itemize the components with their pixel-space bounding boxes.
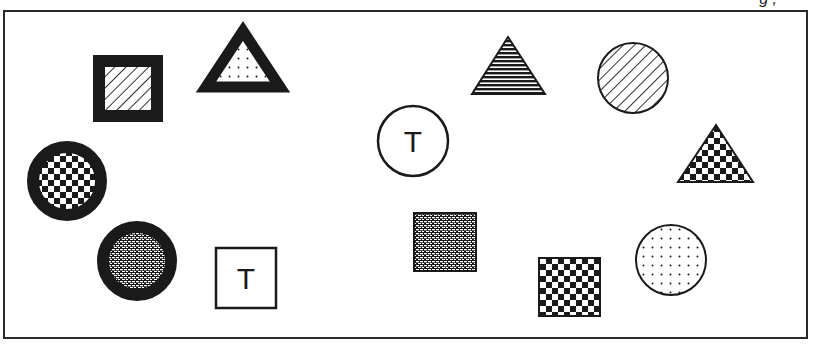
- circle-t: T: [378, 106, 448, 176]
- square-t-label: T: [237, 262, 255, 295]
- triangle-checkered: [678, 125, 753, 182]
- square-hatched-thick: [99, 61, 157, 116]
- circle-checkered-thick: [33, 147, 101, 215]
- square-brick: [414, 213, 476, 271]
- circle-hatched: [598, 43, 668, 113]
- triangle-horizontal-lines: [472, 37, 545, 94]
- circle-brick-thick: [103, 227, 171, 295]
- square-checkered: [539, 258, 600, 316]
- shapes-canvas: T T: [0, 0, 817, 346]
- circle-dotted: [636, 225, 706, 295]
- square-t: T: [216, 248, 276, 308]
- circle-t-label: T: [404, 125, 422, 158]
- triangle-dotted-thick: [206, 31, 280, 87]
